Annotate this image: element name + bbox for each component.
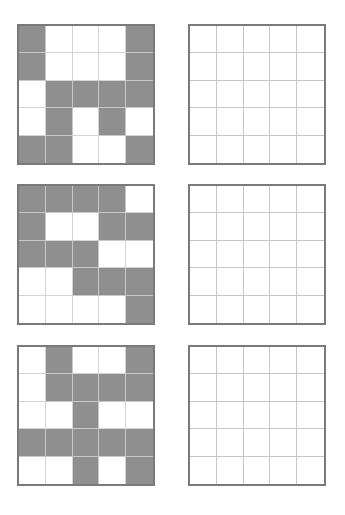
grid-cell[interactable] xyxy=(244,457,271,484)
grid-cell xyxy=(46,429,73,456)
grid-cell[interactable] xyxy=(217,268,244,295)
grid-cell[interactable] xyxy=(217,347,244,374)
grid-cell[interactable] xyxy=(270,81,297,108)
grid-cell xyxy=(126,374,153,401)
grid-cell[interactable] xyxy=(244,296,271,323)
grid-cell[interactable] xyxy=(244,402,271,429)
grid-cell[interactable] xyxy=(217,296,244,323)
grid-cell[interactable] xyxy=(217,402,244,429)
grid-cell xyxy=(46,241,73,268)
grid-cell[interactable] xyxy=(217,26,244,53)
grid-cell[interactable] xyxy=(190,186,217,213)
grid-cell[interactable] xyxy=(217,81,244,108)
grid-cell[interactable] xyxy=(217,374,244,401)
grid-cell[interactable] xyxy=(190,26,217,53)
grid-cell[interactable] xyxy=(190,296,217,323)
grid-cell xyxy=(99,186,126,213)
grid-cell xyxy=(73,53,100,80)
grid-cell[interactable] xyxy=(217,53,244,80)
grid-cell xyxy=(99,108,126,135)
grid-cell xyxy=(99,26,126,53)
grid-cell[interactable] xyxy=(190,213,217,240)
grid-cell[interactable] xyxy=(190,136,217,163)
grid-cell[interactable] xyxy=(270,241,297,268)
grid-cell[interactable] xyxy=(217,429,244,456)
grid-cell[interactable] xyxy=(270,213,297,240)
grid-cell xyxy=(99,53,126,80)
grid-cell[interactable] xyxy=(297,186,324,213)
grid-cell[interactable] xyxy=(190,53,217,80)
grid-cell[interactable] xyxy=(297,136,324,163)
grid-cell[interactable] xyxy=(297,374,324,401)
grid-cell[interactable] xyxy=(244,241,271,268)
grid-cell[interactable] xyxy=(190,108,217,135)
answer-grid-3[interactable] xyxy=(188,345,326,486)
grid-cell xyxy=(73,268,100,295)
grid-cell[interactable] xyxy=(270,108,297,135)
grid-cell[interactable] xyxy=(297,429,324,456)
grid-cell xyxy=(126,457,153,484)
grid-cell[interactable] xyxy=(244,108,271,135)
grid-cell[interactable] xyxy=(270,268,297,295)
grid-cell[interactable] xyxy=(297,81,324,108)
grid-cell[interactable] xyxy=(244,26,271,53)
grid-cell[interactable] xyxy=(217,108,244,135)
grid-cell[interactable] xyxy=(217,457,244,484)
grid-cell xyxy=(73,402,100,429)
grid-cell[interactable] xyxy=(244,136,271,163)
grid-cell xyxy=(73,213,100,240)
grid-cell[interactable] xyxy=(270,429,297,456)
grid-cell[interactable] xyxy=(297,108,324,135)
grid-cell[interactable] xyxy=(244,213,271,240)
grid-cell[interactable] xyxy=(244,53,271,80)
grid-cell[interactable] xyxy=(270,53,297,80)
grid-cell[interactable] xyxy=(244,429,271,456)
grid-cell xyxy=(19,53,46,80)
grid-cell[interactable] xyxy=(244,81,271,108)
grid-cell[interactable] xyxy=(190,347,217,374)
grid-cell xyxy=(46,53,73,80)
grid-cell[interactable] xyxy=(297,26,324,53)
grid-cell[interactable] xyxy=(217,186,244,213)
grid-cell[interactable] xyxy=(190,402,217,429)
grid-cell[interactable] xyxy=(190,374,217,401)
grid-cell[interactable] xyxy=(297,268,324,295)
grid-cell[interactable] xyxy=(270,186,297,213)
answer-grid-1[interactable] xyxy=(188,24,326,165)
grid-cell xyxy=(19,402,46,429)
grid-cell[interactable] xyxy=(244,186,271,213)
grid-cell[interactable] xyxy=(217,241,244,268)
grid-cell[interactable] xyxy=(297,53,324,80)
grid-cell[interactable] xyxy=(217,136,244,163)
grid-cell xyxy=(46,347,73,374)
grid-cell[interactable] xyxy=(190,268,217,295)
grid-cell[interactable] xyxy=(297,347,324,374)
grid-cell[interactable] xyxy=(270,402,297,429)
grid-cell[interactable] xyxy=(244,374,271,401)
grid-cell[interactable] xyxy=(244,268,271,295)
grid-cell xyxy=(46,268,73,295)
grid-cell[interactable] xyxy=(297,402,324,429)
grid-cell xyxy=(99,402,126,429)
grid-cell xyxy=(126,268,153,295)
grid-cell xyxy=(73,108,100,135)
grid-cell[interactable] xyxy=(270,26,297,53)
grid-cell[interactable] xyxy=(190,241,217,268)
grid-cell[interactable] xyxy=(297,296,324,323)
grid-cell[interactable] xyxy=(297,241,324,268)
grid-cell[interactable] xyxy=(190,429,217,456)
grid-cell[interactable] xyxy=(297,457,324,484)
grid-cell[interactable] xyxy=(217,213,244,240)
grid-cell[interactable] xyxy=(270,457,297,484)
grid-cell[interactable] xyxy=(270,374,297,401)
grid-cell[interactable] xyxy=(270,347,297,374)
answer-grid-2[interactable] xyxy=(188,184,326,325)
grid-cell xyxy=(19,186,46,213)
grid-cell[interactable] xyxy=(270,296,297,323)
grid-cell[interactable] xyxy=(244,347,271,374)
grid-cell[interactable] xyxy=(190,457,217,484)
grid-cell[interactable] xyxy=(190,81,217,108)
grid-cell[interactable] xyxy=(270,136,297,163)
grid-cell xyxy=(73,186,100,213)
grid-cell[interactable] xyxy=(297,213,324,240)
